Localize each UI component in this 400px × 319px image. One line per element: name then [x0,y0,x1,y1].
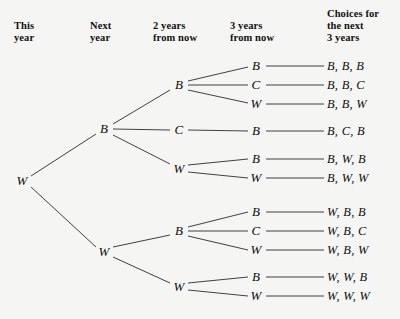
outcome-label-o6: B, W, W [327,171,369,186]
tree-node-n1a1: B [252,58,260,74]
tree-edge [113,90,170,124]
outcome-label-o5: B, W, B [327,152,366,167]
tree-edge [188,277,248,283]
tree-node-n1c2: W [250,170,261,186]
tree-node-n2b: W [173,279,184,295]
tree-node-n2a1: B [252,204,260,220]
outcome-label-o2: B, B, C [327,78,365,93]
outcome-label-o10: W, W, B [327,270,367,285]
tree-node-n2a3: W [250,242,261,258]
tree-edge [188,172,248,178]
tree-edge [188,290,248,296]
outcome-label-o4: B, C, B [327,124,365,139]
tree-edge [113,257,170,283]
tree-node-n2a: B [175,223,183,239]
tree-edge [113,135,170,164]
tree-edge [113,235,170,247]
tree-edge [31,187,96,247]
tree-node-n1b: C [175,122,184,138]
tree-edge [188,67,248,81]
tree-node-n1a2: C [252,77,261,93]
tree-diagram-canvas: This yearNext year2 years from now3 year… [0,0,400,319]
tree-edge [188,130,248,131]
outcome-label-o1: B, B, B [327,59,364,74]
tree-edge [188,212,248,227]
tree-node-n1: B [100,121,108,137]
tree-node-n2b1: B [252,269,260,285]
tree-node-n2a2: C [252,223,261,239]
outcome-label-o3: B, B, W [327,97,367,112]
outcome-label-o8: W, B, C [327,224,367,239]
column-header-three-years: 3 years from now [230,20,274,44]
tree-edge [188,90,248,103]
tree-edge [113,129,170,130]
tree-edge [188,159,248,165]
tree-node-n1a: B [175,77,183,93]
column-header-this-year: This year [14,20,34,44]
outcome-label-o11: W, W, W [327,289,370,304]
outcome-label-o7: W, B, B [327,205,366,220]
column-header-choices: Choices for the next 3 years [327,8,379,43]
column-header-two-years: 2 years from now [153,20,197,44]
tree-node-n0: W [16,173,27,189]
tree-node-n1a3: W [250,96,261,112]
tree-edge [188,236,248,250]
tree-node-n2: W [98,244,109,260]
tree-node-n1c: W [173,161,184,177]
tree-edge [31,134,96,176]
column-header-next-year: Next year [90,20,111,44]
outcome-label-o9: W, B, W [327,243,369,258]
tree-node-n1c1: B [252,151,260,167]
tree-node-n2b2: W [250,288,261,304]
tree-node-n1b1: B [252,123,260,139]
